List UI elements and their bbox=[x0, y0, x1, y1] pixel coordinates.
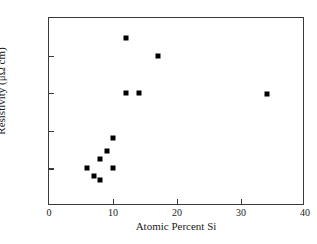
plot-area-frame: 20040060080010001200 010203040 bbox=[48, 17, 304, 205]
data-point bbox=[85, 166, 90, 171]
data-point bbox=[111, 136, 116, 141]
data-point bbox=[155, 53, 160, 58]
y-axis-tick bbox=[49, 168, 54, 169]
data-point bbox=[98, 177, 103, 182]
data-point bbox=[91, 173, 96, 178]
y-axis-tick bbox=[49, 131, 54, 132]
x-axis-tick bbox=[177, 199, 178, 204]
y-axis-tick bbox=[49, 56, 54, 57]
data-point bbox=[111, 166, 116, 171]
data-point bbox=[104, 148, 109, 153]
y-axis-tick bbox=[49, 93, 54, 94]
y-axis-title: Resistivity (μΩ cm) bbox=[0, 0, 9, 48]
y-axis-title-text: Resistivity (μΩ cm) bbox=[0, 47, 7, 134]
x-axis-tick bbox=[113, 199, 114, 204]
data-point bbox=[136, 91, 141, 96]
data-point bbox=[264, 92, 269, 97]
data-point bbox=[123, 91, 128, 96]
x-axis-tick-label: 30 bbox=[236, 208, 246, 218]
x-axis-tick-label: 20 bbox=[172, 208, 182, 218]
x-axis-tick bbox=[241, 199, 242, 204]
data-point bbox=[123, 35, 128, 40]
x-axis-tick-label: 0 bbox=[47, 208, 52, 218]
x-axis-tick-label: 10 bbox=[108, 208, 118, 218]
data-points-layer bbox=[49, 18, 303, 204]
scatter-chart-figure: 20040060080010001200 010203040 Resistivi… bbox=[0, 0, 317, 244]
x-axis-title: Atomic Percent Si bbox=[48, 221, 304, 232]
x-axis-tick-label: 40 bbox=[300, 208, 310, 218]
data-point bbox=[98, 157, 103, 162]
